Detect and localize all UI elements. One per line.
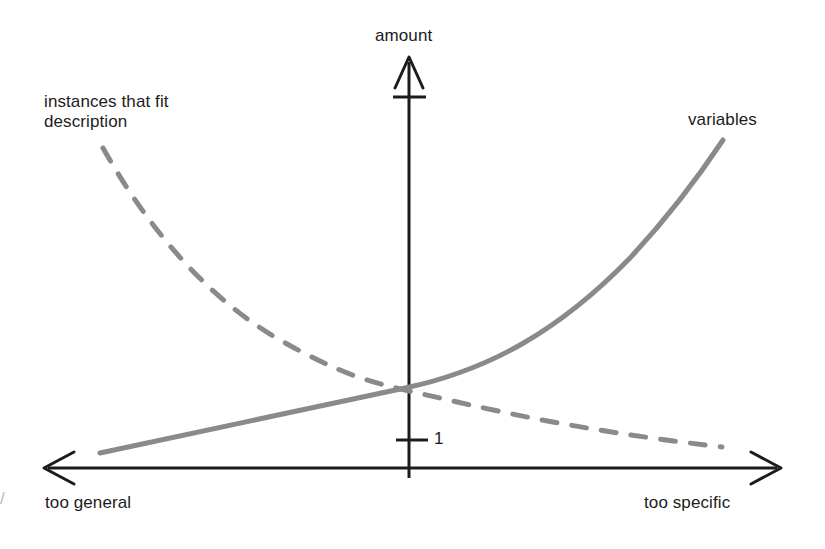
dashed-curve-label: instances that fit description <box>44 92 169 132</box>
y-axis-tick-label-one: 1 <box>434 429 444 449</box>
diagram-svg <box>0 0 825 549</box>
x-axis-right-label: too specific <box>644 493 730 513</box>
y-axis-label: amount <box>375 26 432 46</box>
diagram-canvas: amount instances that fit description va… <box>0 0 825 549</box>
curve-instances-that-fit-description <box>103 148 722 447</box>
x-axis <box>44 452 781 484</box>
solid-curve-label: variables <box>688 110 757 130</box>
page-edge-mark: / <box>0 489 12 505</box>
curve-variables <box>100 140 723 453</box>
x-axis-left-label: too general <box>45 493 131 513</box>
y-axis <box>393 57 428 478</box>
